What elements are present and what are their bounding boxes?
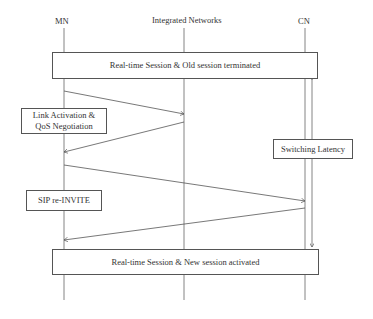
- participant-mn: MN: [55, 16, 69, 26]
- participant-cn: CN: [298, 16, 310, 26]
- message-cn-to-mn: [64, 208, 305, 240]
- link-activation-line2: QoS Negotiation: [35, 121, 92, 132]
- bottom-session-box: Real-time Session & New session activate…: [52, 249, 319, 275]
- link-activation-line1: Link Activation &: [33, 110, 95, 121]
- switching-latency-box: Switching Latency: [273, 139, 353, 159]
- link-activation-box: Link Activation & QoS Negotiation: [21, 108, 107, 134]
- participant-integrated-networks: Integrated Networks: [152, 15, 222, 25]
- top-session-box: Real-time Session & Old session terminat…: [52, 52, 318, 79]
- sip-reinvite-box: SIP re-INVITE: [26, 190, 102, 211]
